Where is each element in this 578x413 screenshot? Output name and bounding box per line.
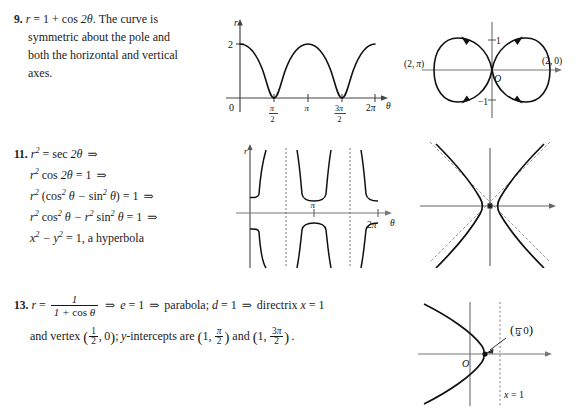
svg-text:3π: 3π: [335, 104, 344, 113]
problem-9-line-2: symmetric about the pole and: [28, 28, 214, 46]
svg-text:(2, 0): (2, 0): [542, 56, 562, 67]
svg-text:x = 1: x = 1: [503, 389, 524, 400]
frac-denominator: 1 + cos θ: [51, 306, 98, 319]
figure-13-parabola-graph: O (1, 0) 2 x = 1: [396, 288, 576, 412]
problem-11-line-2: r2 cos 2θ = 1⇒: [30, 163, 229, 184]
problem-13-number: 13.: [14, 299, 28, 311]
svg-text:2π: 2π: [367, 220, 377, 230]
svg-text:0: 0: [229, 102, 234, 113]
textbook-solutions-page: 9. r = 1 + cos 2θ. The curve is symmetri…: [0, 0, 578, 413]
problem-13-vertex-prefix: and vertex: [30, 329, 80, 343]
problem-13-block: 13. r = 11 + cos θ⇒e = 1⇒parabola; d = 1…: [14, 293, 394, 348]
problem-9-text-seg-1: . The curve is: [93, 12, 158, 26]
figure-9-polar-graph: 1 −1 O (2, π) (2, 0): [404, 14, 576, 124]
problem-11-line-1: 11. r2 = sec 2θ⇒: [14, 142, 229, 163]
svg-text:2: 2: [517, 329, 521, 338]
problem-11-number: 11.: [14, 148, 28, 160]
problem-11-block: 11. r2 = sec 2θ⇒ r2 cos 2θ = 1⇒ r2 (cos2…: [14, 142, 229, 247]
svg-text:2: 2: [338, 115, 342, 124]
svg-text:r: r: [234, 18, 238, 28]
problem-13-step-parabola: parabola; d = 1: [164, 298, 236, 312]
svg-text:1: 1: [496, 36, 501, 46]
problem-9-line-1: 9. r = 1 + cos 2θ. The curve is: [14, 10, 214, 28]
problem-11-line-3: r2 (cos2 θ − sin2 θ) = 1⇒: [30, 184, 229, 205]
problem-11-line-5: x2 − y2 = 1, a hyperbola: [30, 226, 229, 247]
problem-11-step-1: r2 = sec 2θ: [31, 147, 83, 161]
problem-9-number: 9.: [14, 13, 23, 25]
svg-text:O: O: [462, 358, 469, 369]
svg-text:2π: 2π: [366, 103, 376, 113]
problem-13-line-1: 13. r = 11 + cos θ⇒e = 1⇒parabola; d = 1…: [14, 293, 394, 319]
problem-9-block: 9. r = 1 + cos 2θ. The curve is symmetri…: [14, 10, 214, 82]
svg-text:π: π: [305, 103, 310, 113]
svg-text:θ: θ: [390, 218, 395, 228]
svg-text:2: 2: [228, 39, 233, 50]
svg-text:π: π: [311, 200, 316, 210]
figure-11-cartesian-graph: r θ π 2π: [234, 142, 402, 270]
problem-11-line-4: r2 cos2 θ − r2 sin2 θ = 1⇒: [30, 205, 229, 226]
problem-9-line-4: axes.: [28, 64, 214, 82]
svg-text:π: π: [270, 104, 275, 113]
svg-text:θ: θ: [386, 101, 391, 111]
problem-13-equation: r = 11 + cos θ: [31, 298, 100, 312]
problem-13-line-2: and vertex (12, 0); y-intercepts are (1,…: [30, 327, 394, 348]
figure-11-hyperbola-graph: [410, 142, 572, 268]
svg-text:r: r: [244, 146, 248, 156]
problem-13-step-directrix: directrix x = 1: [257, 298, 325, 312]
problem-9-line-3: both the horizontal and vertical: [28, 46, 214, 64]
svg-text:(1, 0): (1, 0): [510, 322, 533, 337]
problem-13-step-e: e = 1: [120, 298, 144, 312]
frac-numerator: 1: [51, 293, 98, 307]
svg-text:O: O: [494, 73, 501, 84]
svg-text:−1: −1: [478, 97, 488, 107]
svg-text:2: 2: [271, 115, 275, 124]
svg-text:(2, π): (2, π): [404, 59, 424, 70]
problem-9-equation: r = 1 + cos 2θ: [26, 12, 93, 26]
figure-9-cartesian-graph: r θ 0 2 π 2 π 3π 2 2π: [218, 14, 394, 126]
